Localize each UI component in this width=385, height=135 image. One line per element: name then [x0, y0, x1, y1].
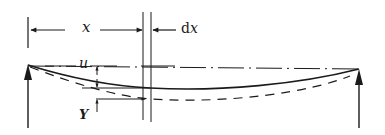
dimension-Y	[96, 99, 145, 112]
right-support-arrow	[355, 69, 363, 128]
label-dx-prefix: d	[181, 20, 190, 36]
label-Y: Y	[79, 108, 88, 121]
label-u: u	[79, 56, 88, 70]
left-support-arrow	[24, 64, 32, 128]
label-dx-var: x	[190, 20, 198, 36]
total-curve	[30, 67, 350, 100]
beam-deflection-diagram: x dx u Y	[0, 0, 385, 135]
label-x: x	[82, 20, 90, 35]
chord-line	[28, 66, 359, 69]
label-dx: dx	[181, 21, 198, 35]
